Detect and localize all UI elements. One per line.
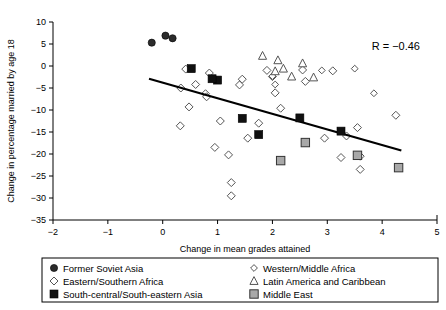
data-point — [259, 51, 267, 59]
x-tick-group: −2−1012345 — [48, 220, 440, 237]
data-point — [392, 111, 400, 119]
data-point — [238, 114, 246, 122]
data-point — [271, 67, 279, 75]
legend-entry: Eastern/Southern Africa — [50, 276, 164, 287]
data-point — [296, 114, 304, 122]
data-point — [192, 80, 200, 88]
y-axis-title: Change in percentage married by age 18 — [6, 39, 16, 203]
legend-entry-label: Eastern/Southern Africa — [63, 276, 164, 287]
scatter-plot-figure: −35−30−25−20−15−10−50510−2−1012345Change… — [0, 0, 446, 310]
data-point — [255, 131, 263, 139]
data-point — [276, 156, 284, 164]
data-point — [263, 66, 271, 74]
data-point — [279, 64, 287, 72]
data-point — [271, 89, 279, 97]
data-point — [318, 67, 325, 74]
y-tick-label: −35 — [31, 215, 46, 225]
data-point — [321, 134, 329, 142]
legend-entry: Middle East — [250, 289, 313, 300]
data-points-layer — [176, 51, 400, 199]
data-point — [176, 122, 184, 130]
series-0 — [148, 32, 176, 46]
data-point — [353, 151, 361, 159]
y-tick-label: 0 — [41, 61, 46, 71]
data-point — [216, 117, 224, 125]
data-point — [353, 124, 361, 132]
x-tick-label: 5 — [434, 227, 439, 237]
y-tick-label: −25 — [31, 171, 46, 181]
y-tick-label: −5 — [36, 83, 46, 93]
data-point — [288, 72, 296, 80]
chart-svg: −35−30−25−20−15−10−50510−2−1012345Change… — [0, 0, 446, 310]
axes: −35−30−25−20−15−10−50510−2−1012345Change… — [6, 17, 440, 254]
data-point — [211, 143, 219, 151]
data-point — [329, 67, 337, 75]
legend-entry-label: Western/Middle Africa — [263, 263, 356, 274]
correlation-annotation: R = −0.46 — [372, 40, 420, 52]
legend-entry: Latin America and Caribbean — [250, 276, 386, 287]
y-tick-label: 10 — [36, 17, 46, 27]
data-point — [394, 163, 402, 171]
series-1 — [176, 65, 400, 200]
data-point — [337, 127, 345, 135]
x-axis-title: Change in mean grades attained — [180, 244, 311, 254]
x-tick-label: −2 — [48, 227, 58, 237]
legend: Former Soviet AsiaEastern/Southern Afric… — [42, 258, 438, 302]
legend-entry-label: Middle East — [263, 289, 313, 300]
x-tick-label: 4 — [380, 227, 385, 237]
data-point — [227, 192, 235, 200]
legend-entry: South-central/South-eastern Asia — [50, 289, 203, 300]
data-point — [255, 119, 263, 127]
legend-marker-icon — [250, 277, 258, 285]
data-point — [148, 39, 155, 46]
data-point — [169, 35, 176, 42]
data-point — [187, 65, 195, 73]
y-tick-label: −15 — [31, 127, 46, 137]
legend-marker-icon — [251, 265, 258, 272]
data-point — [227, 179, 235, 187]
data-point — [351, 65, 358, 72]
data-point — [208, 75, 216, 83]
data-point — [301, 138, 309, 146]
y-tick-label: 5 — [41, 39, 46, 49]
y-tick-group: −35−30−25−20−15−10−50510 — [31, 17, 53, 225]
data-point — [310, 73, 318, 81]
data-point — [162, 32, 169, 39]
legend-marker-icon — [50, 277, 58, 285]
legend-entry-label: Former Soviet Asia — [63, 263, 144, 274]
data-point — [337, 154, 345, 162]
data-point — [185, 103, 193, 111]
legend-marker-icon — [250, 290, 258, 298]
y-tick-label: −30 — [31, 193, 46, 203]
x-tick-label: 3 — [325, 227, 330, 237]
legend-entry: Former Soviet Asia — [50, 263, 144, 274]
data-point — [274, 56, 282, 64]
x-tick-label: 1 — [215, 227, 220, 237]
data-point — [299, 59, 307, 67]
legend-marker-icon — [50, 290, 58, 298]
data-point — [301, 77, 309, 85]
y-tick-label: −20 — [31, 149, 46, 159]
legend-entry-label: South-central/South-eastern Asia — [63, 289, 203, 300]
legend-entry-label: Latin America and Caribbean — [263, 276, 386, 287]
data-point — [272, 81, 279, 88]
y-tick-label: −10 — [31, 105, 46, 115]
data-point — [244, 134, 252, 142]
x-tick-label: 0 — [160, 227, 165, 237]
data-point — [371, 90, 378, 97]
data-point — [277, 104, 285, 112]
data-point — [356, 165, 364, 173]
x-tick-label: 2 — [270, 227, 275, 237]
legend-entry: Western/Middle Africa — [251, 263, 356, 274]
legend-marker-icon — [50, 264, 57, 271]
data-point — [225, 151, 233, 159]
x-tick-label: −1 — [103, 227, 113, 237]
